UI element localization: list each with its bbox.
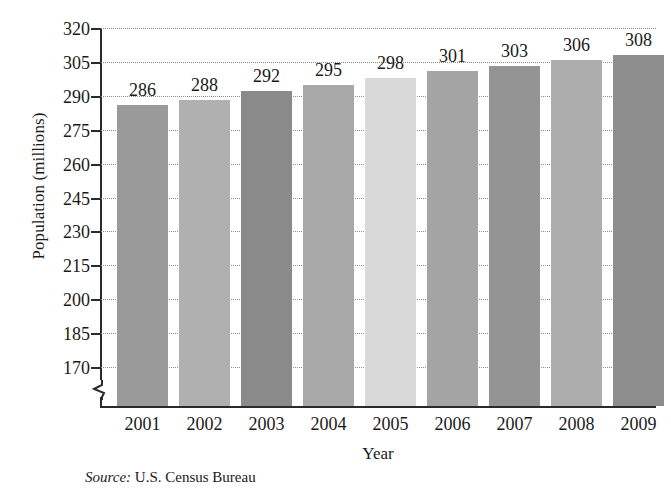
y-axis-tick-label: 275: [38, 122, 90, 140]
source-label: Source:: [85, 469, 131, 485]
y-axis-tick-label: 215: [38, 257, 90, 275]
y-axis-line: [100, 28, 102, 380]
x-axis-tick-label: 2007: [481, 414, 548, 434]
bar: [303, 85, 354, 407]
bar-value-label: 298: [359, 54, 422, 72]
y-axis-tick: [91, 62, 101, 64]
bar-value-label: 292: [235, 67, 298, 85]
x-axis-tick-label: 2008: [543, 414, 610, 434]
y-axis-tick-labels: 320305290275260245230215200185170: [32, 28, 90, 408]
y-axis-tick-label: 290: [38, 88, 90, 106]
x-axis-tick-label: 2004: [295, 414, 362, 434]
axis-break-icon: [91, 380, 113, 400]
population-bar-chart: Population (millions) 320305290275260245…: [0, 0, 671, 494]
bar-value-label: 306: [545, 36, 608, 54]
y-axis-tick-label: 305: [38, 54, 90, 72]
y-axis-tick-label: 320: [38, 20, 90, 38]
y-axis-tick-label: 185: [38, 325, 90, 343]
source-text: U.S. Census Bureau: [135, 469, 256, 485]
y-axis-tick-label: 245: [38, 190, 90, 208]
source-note: Source: U.S. Census Bureau: [85, 468, 256, 486]
x-axis-line: [100, 406, 656, 408]
x-axis-tick-label: 2009: [605, 414, 671, 434]
plot-area: 286288292295298301303306308 200120022003…: [100, 28, 656, 408]
bar-value-label: 308: [607, 31, 670, 49]
x-axis-tick-label: 2006: [419, 414, 486, 434]
bar: [427, 71, 478, 406]
x-axis-tick-label: 2005: [357, 414, 424, 434]
bar: [179, 100, 230, 406]
y-axis-tick: [91, 28, 101, 30]
bar-value-label: 295: [297, 61, 360, 79]
y-axis-tick-label: 200: [38, 291, 90, 309]
bar: [241, 91, 292, 406]
y-axis-tick: [91, 198, 101, 200]
gridline: [100, 28, 656, 29]
bar-value-label: 301: [421, 47, 484, 65]
bar: [365, 78, 416, 406]
bar-value-label: 288: [173, 76, 236, 94]
y-axis-tick: [91, 299, 101, 301]
bar: [117, 105, 168, 406]
y-axis-tick: [91, 130, 101, 132]
y-axis-tick: [91, 164, 101, 166]
bar: [613, 55, 664, 406]
x-axis-tick-label: 2001: [109, 414, 176, 434]
bar: [489, 66, 540, 406]
y-axis-tick-label: 230: [38, 223, 90, 241]
x-axis-tick-label: 2002: [171, 414, 238, 434]
bar-value-label: 286: [111, 81, 174, 99]
x-axis-title: Year: [100, 444, 656, 464]
y-axis-tick: [91, 333, 101, 335]
bar: [551, 60, 602, 406]
bar-value-label: 303: [483, 42, 546, 60]
x-axis-tick-label: 2003: [233, 414, 300, 434]
y-axis-tick-label: 260: [38, 156, 90, 174]
y-axis-tick: [91, 96, 101, 98]
y-axis-tick: [91, 231, 101, 233]
y-axis-tick: [91, 265, 101, 267]
y-axis-tick: [91, 367, 101, 369]
y-axis-tick-label: 170: [38, 359, 90, 377]
